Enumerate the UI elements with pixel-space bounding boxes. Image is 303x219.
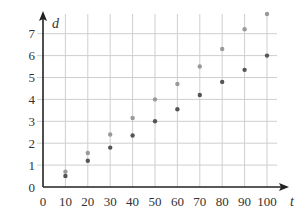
scatter-chart: 0102030405060708090100 01234567 t d [0, 0, 303, 219]
x-tick-label: 90 [238, 194, 251, 209]
data-point [63, 174, 67, 178]
axes [39, 11, 289, 191]
data-point [175, 107, 179, 111]
data-point [242, 68, 246, 72]
x-tick-label: 30 [104, 194, 117, 209]
data-point [108, 132, 112, 136]
grid-lines [37, 14, 277, 187]
x-tick-label: 0 [40, 194, 47, 209]
data-points [63, 12, 269, 178]
data-point [63, 169, 67, 173]
data-point [175, 82, 179, 86]
x-tick-label: 80 [216, 194, 229, 209]
x-tick-label: 60 [171, 194, 184, 209]
y-tick-label: 2 [29, 136, 36, 151]
data-point [220, 80, 224, 84]
data-point [153, 97, 157, 101]
x-tick-label: 10 [59, 194, 72, 209]
y-tick-label: 3 [29, 114, 36, 129]
y-axis-label: d [52, 16, 60, 31]
data-point [86, 151, 90, 155]
data-point [130, 133, 134, 137]
x-axis-label: t [290, 194, 295, 209]
x-tick-label: 50 [149, 194, 162, 209]
y-tick-label: 4 [29, 92, 36, 107]
y-tick-label: 0 [29, 180, 36, 195]
data-point [220, 47, 224, 51]
x-tick-labels: 0102030405060708090100 [40, 194, 277, 209]
data-point [108, 145, 112, 149]
data-point [130, 116, 134, 120]
x-tick-label: 100 [257, 194, 277, 209]
y-tick-label: 6 [29, 48, 36, 63]
x-tick-label: 70 [193, 194, 206, 209]
data-point [86, 159, 90, 163]
data-point [265, 12, 269, 16]
y-tick-labels: 01234567 [29, 26, 36, 194]
y-tick-label: 1 [29, 158, 36, 173]
data-point [242, 27, 246, 31]
x-tick-label: 40 [126, 194, 139, 209]
data-point [153, 119, 157, 123]
y-tick-label: 7 [29, 26, 36, 41]
x-tick-label: 20 [81, 194, 94, 209]
data-point [198, 64, 202, 68]
y-tick-label: 5 [29, 70, 36, 85]
data-point [198, 93, 202, 97]
data-point [265, 53, 269, 57]
